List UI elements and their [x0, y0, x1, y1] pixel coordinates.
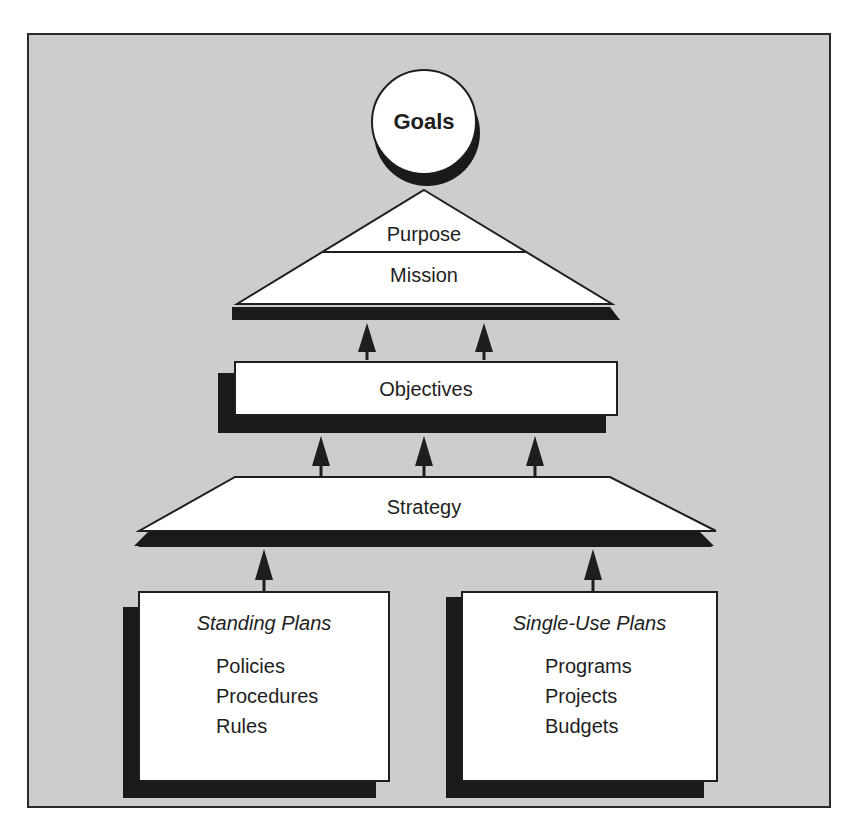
standing-plans-title: Standing Plans [139, 612, 389, 635]
goals-label: Goals [374, 109, 474, 135]
purpose-label: Purpose [344, 223, 504, 246]
standing-plan-item: Policies [216, 655, 285, 678]
standing-plan-item: Rules [216, 715, 267, 738]
arrows-strategy-to-objectives [312, 436, 544, 476]
strategy-label: Strategy [324, 496, 524, 519]
mission-label: Mission [344, 264, 504, 287]
standing-plan-item: Procedures [216, 685, 318, 708]
arrows-plans-to-strategy [255, 549, 602, 592]
objectives-label: Objectives [326, 378, 526, 401]
single-use-plan-item: Budgets [545, 715, 618, 738]
single-use-plan-item: Projects [545, 685, 617, 708]
single-use-plans-title: Single-Use Plans [462, 612, 717, 635]
arrows-objectives-to-mission [358, 323, 493, 360]
single-use-plan-item: Programs [545, 655, 632, 678]
purpose-mission-pyramid [232, 190, 620, 320]
